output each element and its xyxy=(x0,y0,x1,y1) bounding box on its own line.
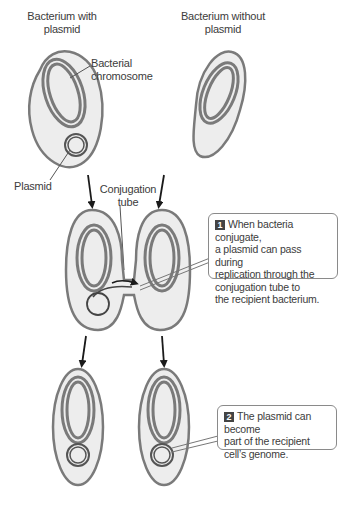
arrow-down-right-2 xyxy=(162,336,164,364)
label-bacterium-with-plasmid: Bacterium with plasmid xyxy=(14,10,110,36)
conjugating-bacteria xyxy=(66,210,190,330)
arrow-down-left-2 xyxy=(82,336,86,364)
label-plasmid: Plasmid xyxy=(14,180,52,193)
bacterium-without-plasmid xyxy=(192,52,246,157)
label-bacterium-without-plasmid: Bacterium without plasmid xyxy=(168,10,278,36)
callout-step-2: 2The plasmid can become part of the reci… xyxy=(217,405,337,450)
step-number-badge: 2 xyxy=(224,412,234,422)
label-conjugation-tube: Conjugation tube xyxy=(96,183,160,209)
bacterium-donor-after xyxy=(53,369,103,485)
step-number-badge: 1 xyxy=(215,220,225,230)
arrow-down-left-1 xyxy=(88,175,92,205)
label-bacterial-chromosome: Bacterial chromosome xyxy=(91,57,153,83)
bacterium-recipient-after xyxy=(139,369,189,485)
callout-step-1: 1When bacteria conjugate, a plasmid can … xyxy=(208,213,338,279)
